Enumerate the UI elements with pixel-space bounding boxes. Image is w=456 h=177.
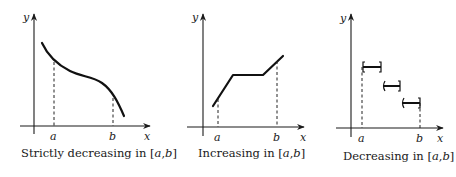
b-tick-label: b bbox=[273, 131, 280, 144]
y-axis-label: y bbox=[191, 11, 199, 24]
panel-strictly-decreasing: y x a b Strictly decreasing in [a,b] bbox=[20, 11, 177, 160]
step-segment-2 bbox=[383, 81, 400, 91]
x-axis-label: x bbox=[300, 131, 307, 144]
panel-increasing: y x a b Increasing in [a,b] bbox=[187, 11, 307, 160]
x-axis-label: x bbox=[144, 130, 151, 143]
y-axis-label: y bbox=[22, 11, 30, 24]
increasing-piecewise-line bbox=[213, 56, 283, 106]
caption-increasing: Increasing in [a,b] bbox=[198, 146, 305, 160]
step-segment-3 bbox=[402, 98, 420, 108]
a-tick-label: a bbox=[358, 132, 365, 145]
panel-decreasing-step: y x a b Decreasing in [a,b] bbox=[336, 12, 454, 163]
monotonic-functions-figure: y x a b Strictly decreasing in [a,b] y x… bbox=[0, 0, 456, 177]
x-axis-label: x bbox=[437, 132, 444, 145]
caption-decreasing: Decreasing in [a,b] bbox=[343, 149, 454, 163]
b-tick-label: b bbox=[109, 130, 116, 143]
y-axis-label: y bbox=[339, 12, 347, 25]
a-tick-label: a bbox=[50, 130, 57, 143]
step-segment-1 bbox=[363, 62, 381, 72]
caption-strictly-decreasing: Strictly decreasing in [a,b] bbox=[21, 146, 177, 160]
b-tick-label: b bbox=[416, 132, 423, 145]
a-tick-label: a bbox=[214, 131, 221, 144]
